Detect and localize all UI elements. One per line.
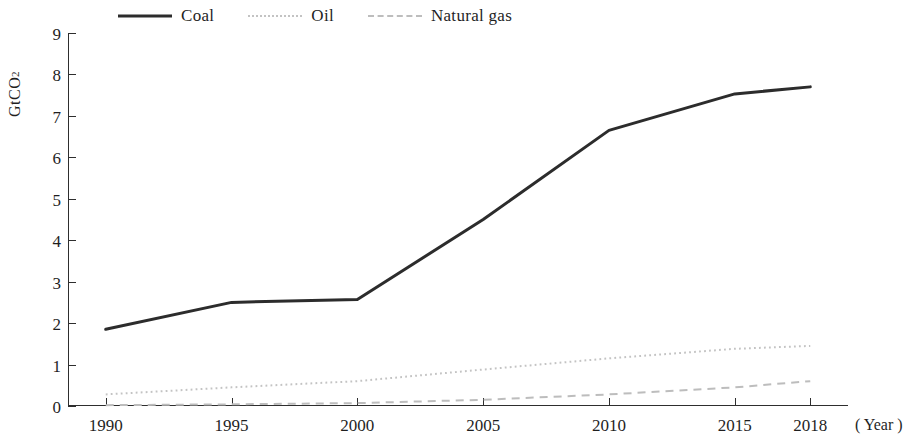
- y-tick-label-8: 8: [53, 67, 62, 84]
- legend-swatch-coal-icon: [118, 10, 172, 22]
- x-tick-label-1990: 1990: [89, 416, 123, 434]
- x-tick-label-2015: 2015: [718, 416, 752, 434]
- legend-item-natural-gas: Natural gas: [368, 6, 512, 26]
- legend-label-oil: Oil: [311, 6, 334, 26]
- x-tick-label-2010: 2010: [592, 416, 626, 434]
- y-tick-label-6: 6: [53, 150, 62, 167]
- x-tick-label-2000: 2000: [340, 416, 374, 434]
- line-chart: Coal Oil Natural gas GtCO2 0123456789 19…: [0, 0, 913, 434]
- x-axis-title: ( Year ): [855, 416, 903, 434]
- x-tick-label-1995: 1995: [215, 416, 249, 434]
- y-tick-label-0: 0: [53, 399, 62, 416]
- y-tick-label-7: 7: [53, 108, 62, 125]
- series-layer: [68, 33, 848, 406]
- y-tick-label-2: 2: [53, 316, 62, 333]
- y-tick-label-4: 4: [53, 233, 62, 250]
- y-axis-title-subscript: 2: [9, 71, 21, 77]
- y-tick-label-1: 1: [53, 357, 62, 374]
- y-tick-label-9: 9: [53, 26, 62, 43]
- x-tick-label-2018: 2018: [793, 416, 827, 434]
- series-line-coal: [106, 87, 811, 329]
- y-axis-title-base: GtCO: [6, 77, 24, 117]
- y-axis-title: GtCO2: [4, 34, 26, 154]
- legend-swatch-natural-gas-icon: [368, 10, 422, 22]
- y-tick-0: 0: [68, 406, 76, 407]
- x-tick-label-2005: 2005: [466, 416, 500, 434]
- chart-legend: Coal Oil Natural gas: [118, 4, 512, 28]
- legend-item-oil: Oil: [248, 6, 334, 26]
- y-tick-label-3: 3: [53, 274, 62, 291]
- legend-label-coal: Coal: [181, 6, 214, 26]
- y-tick-label-5: 5: [53, 191, 62, 208]
- plot-area: 0123456789 1990199520002005201020152018: [68, 33, 848, 406]
- series-line-oil: [106, 346, 811, 394]
- legend-label-natural-gas: Natural gas: [431, 6, 512, 26]
- legend-item-coal: Coal: [118, 6, 214, 26]
- legend-swatch-oil-icon: [248, 10, 302, 22]
- series-line-natural-gas: [106, 381, 811, 405]
